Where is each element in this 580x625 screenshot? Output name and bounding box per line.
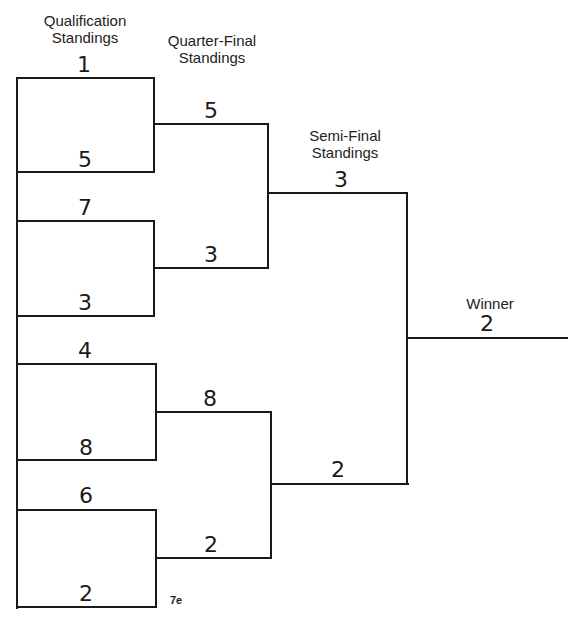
qf-seed-4: 2 [196,534,226,556]
qualification-standings-header: Qualification Standings [20,12,150,46]
qf-line-1 [153,123,269,125]
qf-seed-3: 8 [195,388,225,410]
qf-line-2 [153,267,269,269]
qf-seed-1: 5 [196,100,226,122]
qual-line-5 [16,363,157,365]
qual-line-7 [16,509,157,511]
qual-seed-4: 3 [70,292,100,314]
sf-line-1 [267,192,407,194]
qf-seed-2: 3 [196,244,226,266]
qf-connector-1 [267,123,269,269]
qual-seed-6: 8 [71,437,101,459]
qual-seed-8: 2 [71,583,101,605]
qual-seed-7: 6 [71,485,101,507]
sf-seed-1: 3 [326,169,356,191]
header-text: Quarter-Final Standings [168,32,256,66]
qf-line-3 [155,411,272,413]
qual-line-1 [16,77,155,79]
header-text: Qualification Standings [44,12,127,46]
figure-label: 7e [170,594,182,606]
qual-connector-1 [153,77,155,173]
sf-seed-2: 2 [323,459,353,481]
semi-final-standings-header: Semi-Final Standings [290,127,400,161]
bracket-outer-left-line [16,77,18,609]
qual-seed-5: 4 [70,340,100,362]
winner-header: Winner [440,295,540,312]
header-text: Semi-Final Standings [309,127,381,161]
qual-line-4 [16,315,155,317]
quarter-final-standings-header: Quarter-Final Standings [152,32,272,66]
qual-seed-1: 1 [69,54,99,76]
qf-line-4 [155,557,272,559]
qual-line-3 [16,220,155,222]
qual-seed-2: 5 [70,149,100,171]
winner-seed: 2 [472,313,502,335]
header-text: Winner [466,295,514,312]
qf-connector-2 [270,411,272,559]
sf-line-2 [270,483,409,485]
qual-seed-3: 7 [70,197,100,219]
winner-line [406,337,568,339]
qual-line-8 [16,606,157,608]
